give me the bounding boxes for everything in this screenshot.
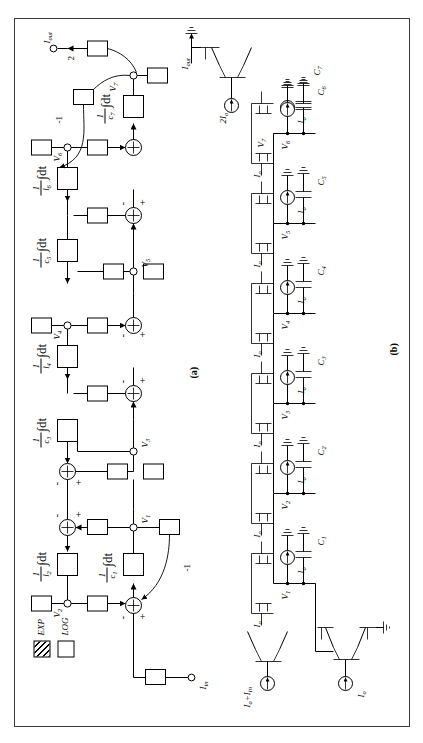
io-source-label-2: Io [296, 477, 307, 483]
circuit-input-stage-2 [248, 632, 288, 691]
capacitor-label-c5: C5 [316, 176, 327, 185]
capacitor-label-c2: C2 [316, 446, 327, 455]
io-source-label-8: Io [252, 531, 263, 537]
capacitor-label-c1: C1 [316, 536, 327, 545]
io-source-label-10: Io [252, 351, 263, 357]
io-source-label-1: Io [296, 567, 307, 573]
ckt-node-label-v1: V1 [280, 591, 291, 600]
ckt-node-label-v3: V3 [280, 411, 291, 420]
io-source-label-7: Io [252, 621, 263, 627]
circuit-cell-5 [252, 168, 316, 266]
circuit-svg [16, 19, 408, 724]
capacitor-label-c7: C7 [312, 66, 323, 75]
io-source-label-9: Io [252, 441, 263, 447]
input-source-label: Io+Iin [242, 687, 253, 707]
io-source-label-3: Io [296, 387, 307, 393]
ckt-node-label-v7: V7 [256, 139, 267, 148]
figure-page: EXP LOG (a) (b) [0, 0, 423, 743]
circuit-cell-3 [252, 348, 316, 446]
capacitor-label-c4: C4 [316, 266, 327, 275]
bias-2io-label: 2Io [218, 113, 229, 124]
ckt-node-label-v6: V6 [280, 141, 291, 150]
io-source-label-12: Io [252, 171, 263, 177]
ckt-node-label-v5: V5 [280, 231, 291, 240]
figure-frame: EXP LOG (a) (b) [14, 18, 410, 727]
circuit-cell-4 [252, 258, 316, 356]
ckt-node-label-v2: V2 [280, 501, 291, 510]
circuit-cell-2 [252, 438, 316, 536]
io-source-label-4: Io [296, 297, 307, 303]
circuit-output-stage [186, 28, 312, 134]
rotated-figure-canvas: EXP LOG (a) (b) [16, 19, 408, 724]
capacitor-label-c6: C6 [316, 86, 327, 95]
io-source-label-6: Io [296, 117, 307, 123]
output-current-label: Iout [180, 58, 191, 69]
capacitor-label-c3: C3 [316, 356, 327, 365]
circuit-cell-6 [252, 78, 316, 176]
io-source-label-5: Io [296, 207, 307, 213]
io-source-label-11: Io [252, 261, 263, 267]
circuit-input-stage [318, 622, 390, 691]
ckt-node-label-v4: V4 [280, 321, 291, 330]
io-source-label-13: Io [356, 691, 367, 697]
